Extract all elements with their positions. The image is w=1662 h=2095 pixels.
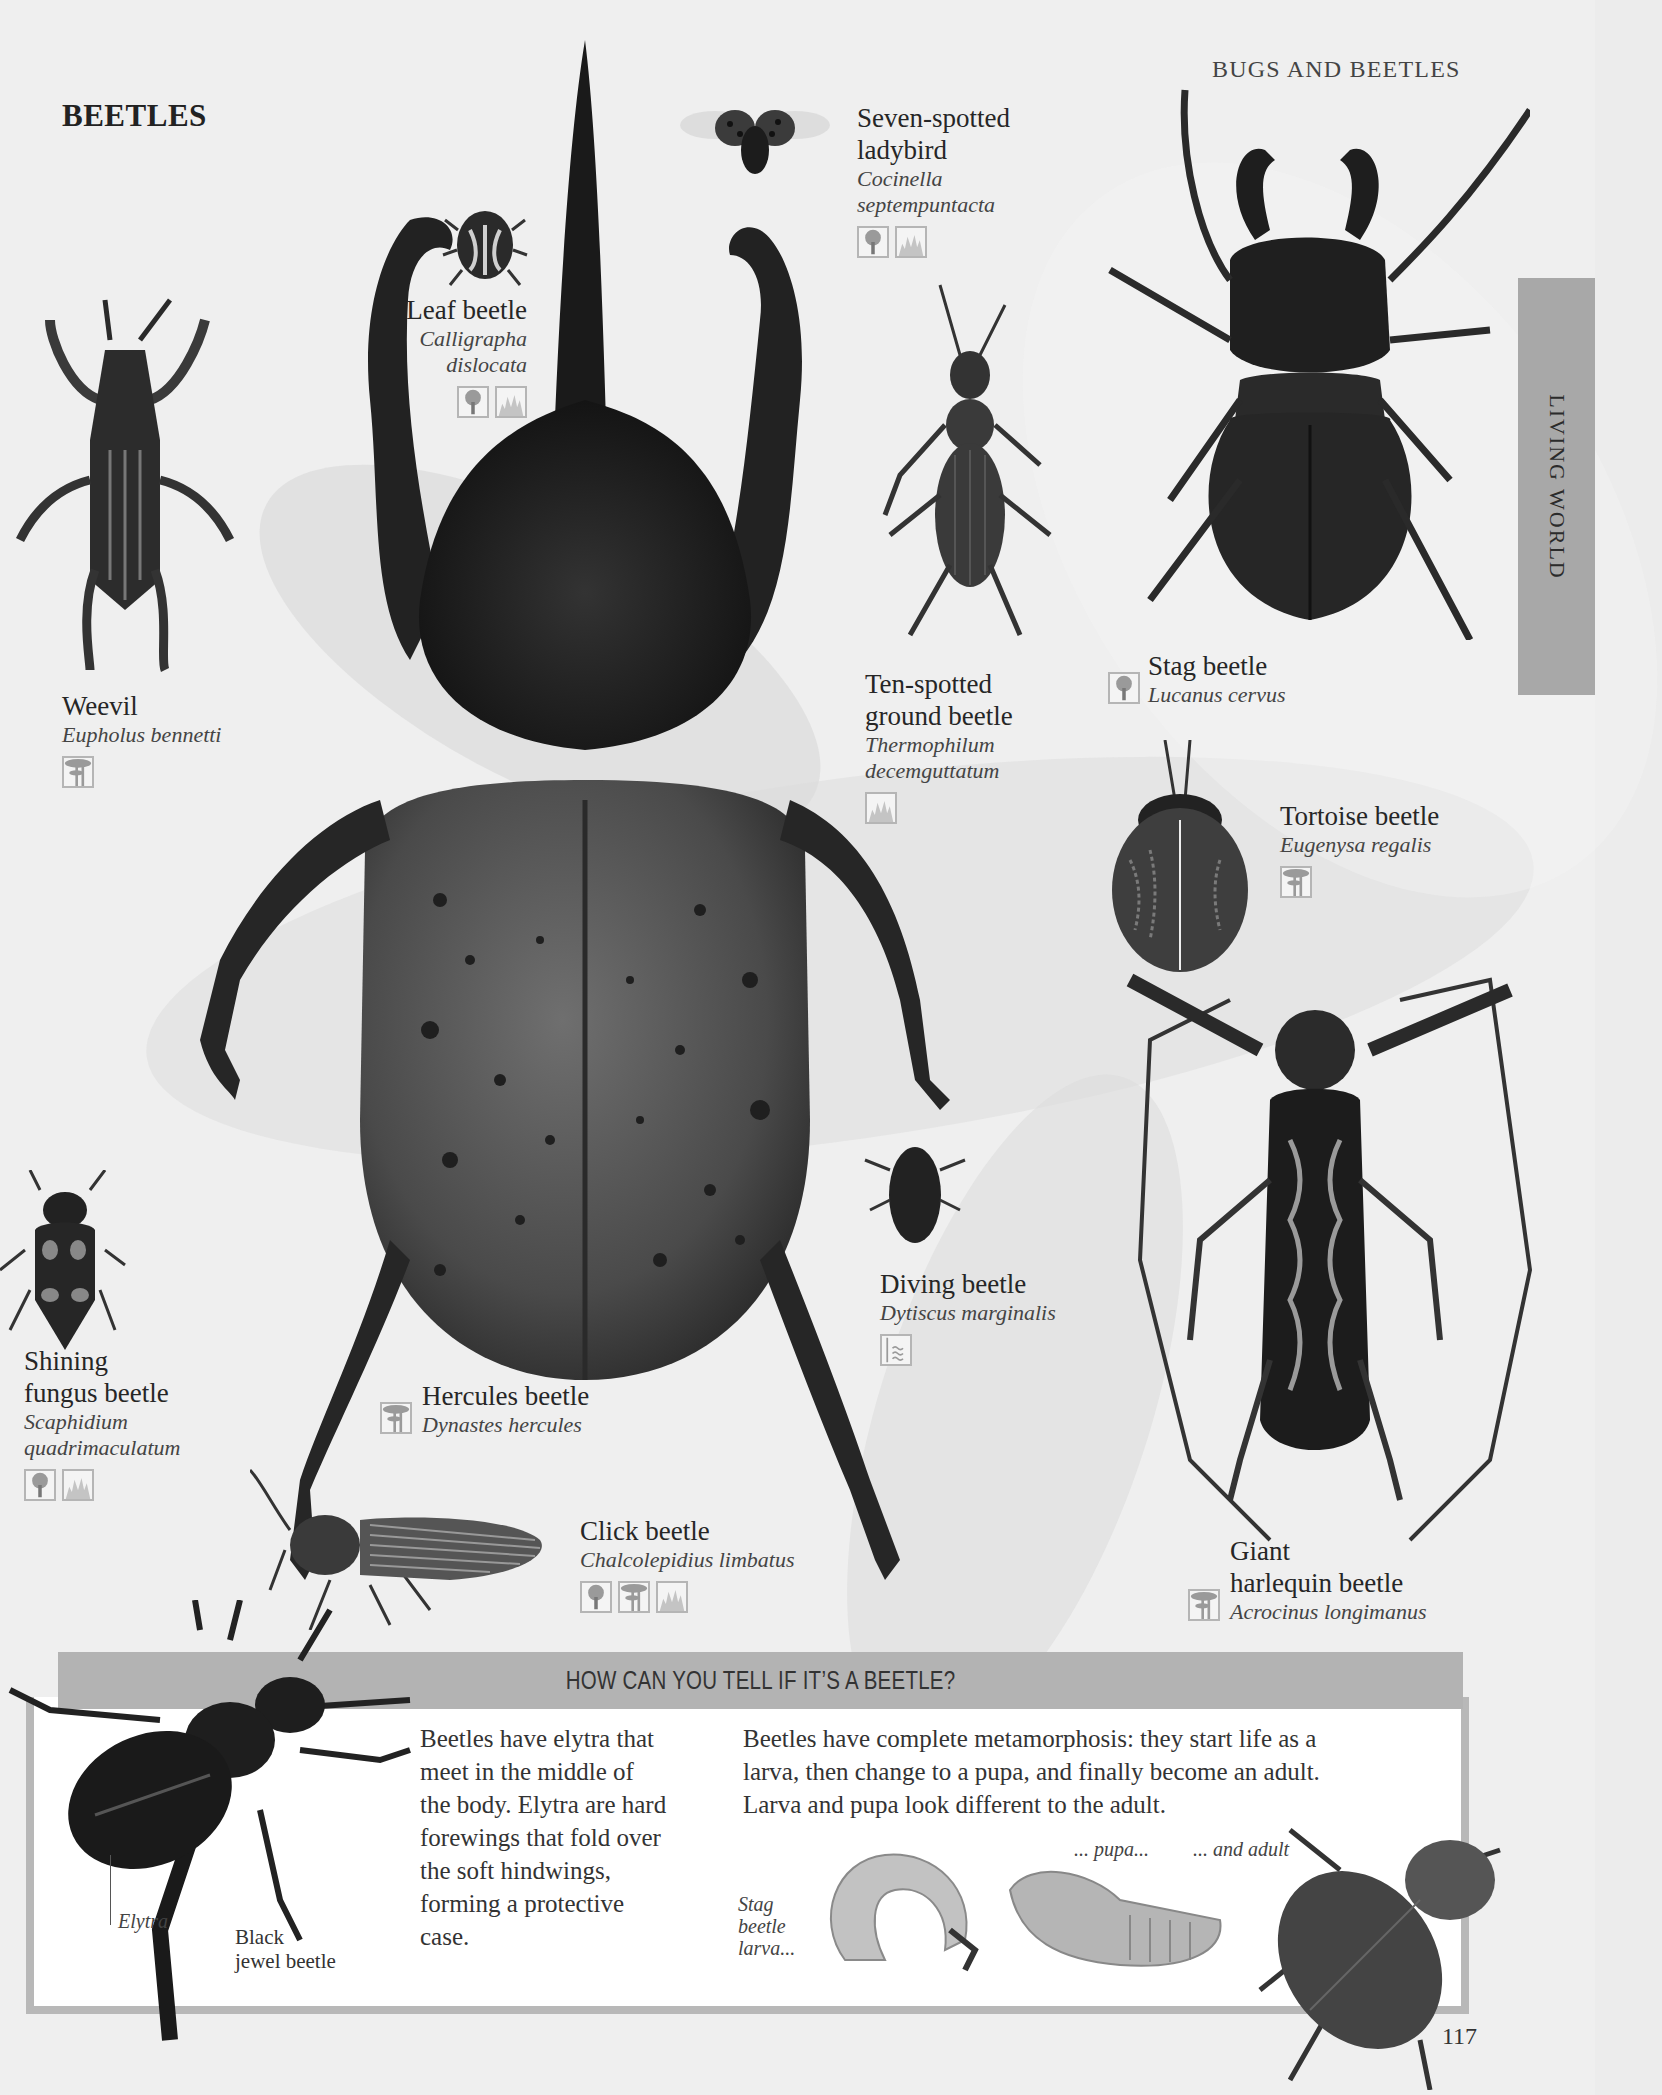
harlequin-beetle-image bbox=[1110, 940, 1540, 1560]
woodland-icon bbox=[580, 1581, 612, 1613]
label-click-beetle: Click beetle Chalcolepidius limbatus bbox=[580, 1515, 795, 1613]
running-head: BUGS AND BEETLES bbox=[1212, 56, 1461, 83]
label-diving-beetle: Diving beetle Dytiscus marginalis bbox=[880, 1268, 1056, 1366]
rainforest-icon bbox=[618, 1581, 650, 1613]
grassland-icon bbox=[495, 386, 527, 418]
elytra-pointer-line bbox=[110, 1855, 111, 1925]
section-tab-label: LIVING WORLD bbox=[1544, 394, 1570, 580]
grassland-icon bbox=[865, 792, 897, 824]
habitat-icons bbox=[330, 386, 527, 418]
woodland-icon bbox=[1108, 672, 1140, 704]
common-name: Shining bbox=[24, 1345, 180, 1377]
latin-name: Lucanus cervus bbox=[1148, 682, 1285, 708]
latin-name: Thermophilum bbox=[865, 732, 1013, 758]
grassland-icon bbox=[62, 1469, 94, 1501]
latin-name: Calligrapha bbox=[330, 326, 527, 352]
habitat-icons bbox=[62, 756, 221, 788]
weevil-image bbox=[10, 280, 240, 680]
page-number: 117 bbox=[1442, 2023, 1477, 2050]
leaf-beetle-image bbox=[440, 195, 530, 290]
rainforest-icon bbox=[1188, 1589, 1220, 1621]
diving-beetle-image bbox=[860, 1130, 970, 1250]
common-name: Seven-spotted bbox=[857, 102, 1010, 134]
larva-label: Stag beetle larva... bbox=[738, 1893, 795, 1959]
label-stag-beetle: Stag beetle Lucanus cervus bbox=[1108, 650, 1285, 708]
label-weevil: Weevil Eupholus bennetti bbox=[62, 690, 221, 788]
elytra-description: Beetles have elytra that meet in the mid… bbox=[420, 1722, 720, 1953]
common-name: Diving beetle bbox=[880, 1268, 1056, 1300]
habitat-icons bbox=[24, 1469, 180, 1501]
info-box-heading: HOW CAN YOU TELL IF IT’S A BEETLE? bbox=[566, 1666, 956, 1695]
black-jewel-beetle-image bbox=[0, 1600, 420, 2080]
latin-name: decemguttatum bbox=[865, 758, 1013, 784]
pupa-label: ... pupa... bbox=[1074, 1838, 1149, 1860]
latin-name: Acrocinus longimanus bbox=[1230, 1599, 1427, 1625]
rainforest-icon bbox=[62, 756, 94, 788]
label-ten-spotted-ground-beetle: Ten-spotted ground beetle Thermophilum d… bbox=[865, 668, 1013, 824]
common-name: Stag beetle bbox=[1148, 650, 1285, 682]
label-leaf-beetle: Leaf beetle Calligrapha dislocata bbox=[330, 294, 527, 418]
ground-beetle-image bbox=[870, 275, 1070, 655]
label-giant-harlequin-beetle: Giant harlequin beetle Acrocinus longima… bbox=[1188, 1535, 1427, 1625]
common-name: Click beetle bbox=[580, 1515, 795, 1547]
label-tortoise-beetle: Tortoise beetle Eugenysa regalis bbox=[1280, 800, 1439, 898]
latin-name: septempuntacta bbox=[857, 192, 1010, 218]
ladybird-image bbox=[680, 100, 830, 180]
latin-name: Eupholus bennetti bbox=[62, 722, 221, 748]
larva-image bbox=[815, 1840, 995, 1990]
label-seven-spotted-ladybird: Seven-spotted ladybird Cocinella septemp… bbox=[857, 102, 1010, 258]
latin-name: Dynastes hercules bbox=[422, 1412, 589, 1438]
latin-name: dislocata bbox=[330, 352, 527, 378]
habitat-icons bbox=[857, 226, 1010, 258]
habitat-icons bbox=[880, 1334, 1056, 1366]
latin-name: Scaphidium bbox=[24, 1409, 180, 1435]
common-name: Weevil bbox=[62, 690, 221, 722]
common-name: Tortoise beetle bbox=[1280, 800, 1439, 832]
latin-name: Eugenysa regalis bbox=[1280, 832, 1439, 858]
common-name: fungus beetle bbox=[24, 1377, 180, 1409]
habitat-icons bbox=[865, 792, 1013, 824]
woodland-icon bbox=[857, 226, 889, 258]
habitat-icons bbox=[580, 1581, 795, 1613]
common-name: Leaf beetle bbox=[330, 294, 527, 326]
fungus-beetle-image bbox=[0, 1170, 130, 1360]
grassland-icon bbox=[895, 226, 927, 258]
label-hercules-beetle: Hercules beetle Dynastes hercules bbox=[380, 1380, 589, 1438]
grassland-icon bbox=[656, 1581, 688, 1613]
woodland-icon bbox=[457, 386, 489, 418]
stag-beetle-image bbox=[1090, 80, 1530, 640]
habitat-icons bbox=[1280, 866, 1439, 898]
common-name: harlequin beetle bbox=[1230, 1567, 1427, 1599]
adult-stag-beetle-image bbox=[1250, 1810, 1530, 2090]
latin-name: quadrimaculatum bbox=[24, 1435, 180, 1461]
label-shining-fungus-beetle: Shining fungus beetle Scaphidium quadrim… bbox=[24, 1345, 180, 1501]
latin-name: Chalcolepidius limbatus bbox=[580, 1547, 795, 1573]
common-name: Hercules beetle bbox=[422, 1380, 589, 1412]
rainforest-icon bbox=[380, 1402, 412, 1434]
common-name: ground beetle bbox=[865, 700, 1013, 732]
elytra-label: Elytra bbox=[118, 1910, 168, 1932]
rainforest-icon bbox=[1280, 866, 1312, 898]
freshwater-icon bbox=[880, 1334, 912, 1366]
latin-name: Dytiscus marginalis bbox=[880, 1300, 1056, 1326]
metamorphosis-description: Beetles have complete metamorphosis: the… bbox=[743, 1722, 1463, 1821]
pupa-image bbox=[1000, 1860, 1230, 1980]
common-name: Ten-spotted bbox=[865, 668, 1013, 700]
common-name: Giant bbox=[1230, 1535, 1427, 1567]
woodland-icon bbox=[24, 1469, 56, 1501]
common-name: ladybird bbox=[857, 134, 1010, 166]
latin-name: Cocinella bbox=[857, 166, 1010, 192]
black-jewel-beetle-label: Black jewel beetle bbox=[235, 1925, 336, 1973]
